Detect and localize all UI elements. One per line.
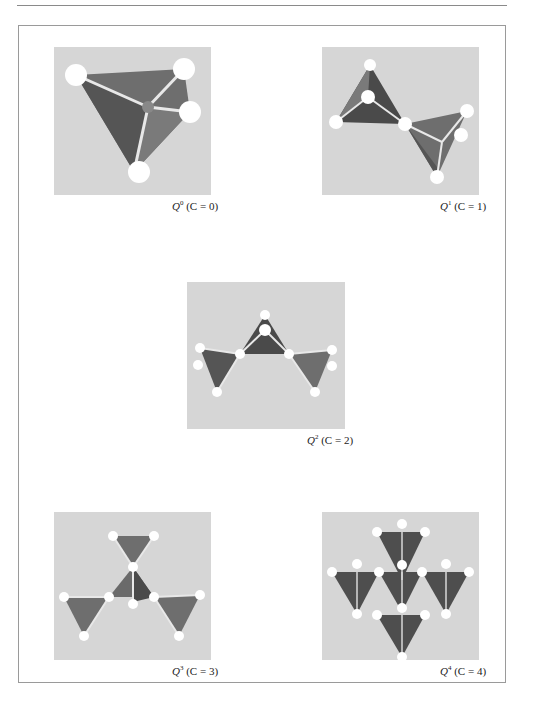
q1-condition: (C = 1) xyxy=(454,200,486,212)
q1-structure-icon xyxy=(322,47,479,195)
q3-symbol: Q xyxy=(172,665,180,677)
q4-network-image xyxy=(322,512,479,660)
q0-condition: (C = 0) xyxy=(186,200,218,212)
q1-symbol: Q xyxy=(440,200,448,212)
q3-branch-image xyxy=(54,512,211,660)
q3-structure-icon xyxy=(54,512,211,660)
q0-tetrahedron-image xyxy=(54,47,211,195)
q2-structure-icon xyxy=(187,282,345,429)
q4-caption: Q4 (C = 4) xyxy=(440,664,486,677)
q4-symbol: Q xyxy=(440,665,448,677)
q1-caption: Q1 (C = 1) xyxy=(440,199,486,212)
q4-structure-icon xyxy=(322,512,479,660)
q2-superscript: 2 xyxy=(315,433,319,441)
q4-superscript: 4 xyxy=(448,664,452,672)
q0-superscript: 0 xyxy=(180,199,184,207)
q2-caption: Q2 (C = 2) xyxy=(307,433,353,446)
q2-chain-image xyxy=(187,282,345,429)
q4-condition: (C = 4) xyxy=(454,665,486,677)
q3-caption: Q3 (C = 3) xyxy=(172,664,218,677)
q1-dimer-image xyxy=(322,47,479,195)
q2-symbol: Q xyxy=(307,434,315,446)
q3-condition: (C = 3) xyxy=(186,665,218,677)
q3-superscript: 3 xyxy=(180,664,184,672)
q0-caption: Q0 (C = 0) xyxy=(172,199,218,212)
q2-condition: (C = 2) xyxy=(321,434,353,446)
q0-structure-icon xyxy=(54,47,211,195)
q0-symbol: Q xyxy=(172,200,180,212)
page-header-rule xyxy=(17,5,507,6)
q1-superscript: 1 xyxy=(448,199,452,207)
